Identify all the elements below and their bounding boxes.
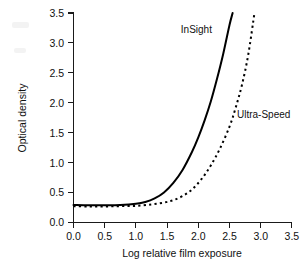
x-tick-marks bbox=[74, 223, 292, 229]
y-axis-title: Optical density bbox=[16, 83, 28, 153]
series-line-ultra-speed bbox=[74, 13, 255, 206]
y-tick-label: 3.5 bbox=[49, 7, 64, 19]
chart-canvas: 3.5 3.0 2.5 2.0 1.5 1.0 0.5 0.0 0.0 0.5 … bbox=[0, 0, 306, 266]
y-tick-label: 0.5 bbox=[49, 186, 64, 198]
x-tick-label: 1.5 bbox=[160, 230, 175, 242]
x-tick-label: 1.0 bbox=[129, 230, 144, 242]
y-tick-label: 2.0 bbox=[49, 97, 64, 109]
x-tick-label: 3.0 bbox=[253, 230, 268, 242]
characteristic-curve-chart: 3.5 3.0 2.5 2.0 1.5 1.0 0.5 0.0 0.0 0.5 … bbox=[0, 0, 306, 266]
x-tick-label: 2.0 bbox=[191, 230, 206, 242]
y-tick-label: 2.5 bbox=[49, 67, 64, 79]
y-tick-marks bbox=[68, 13, 74, 222]
y-tick-label: 3.0 bbox=[49, 37, 64, 49]
x-axis-title: Log relative film exposure bbox=[122, 247, 242, 259]
series-label-ultra-speed: Ultra-Speed bbox=[237, 109, 290, 120]
x-tick-label: 3.5 bbox=[285, 230, 300, 242]
series-line-insight bbox=[74, 13, 233, 205]
y-tick-label: 1.5 bbox=[49, 127, 64, 139]
x-tick-label: 0.5 bbox=[97, 230, 112, 242]
y-tick-labels: 3.5 3.0 2.5 2.0 1.5 1.0 0.5 0.0 bbox=[49, 7, 64, 228]
series-label-insight: InSight bbox=[181, 24, 212, 35]
x-tick-label: 0.0 bbox=[66, 230, 81, 242]
y-tick-label: 0.0 bbox=[49, 216, 64, 228]
y-tick-label: 1.0 bbox=[49, 157, 64, 169]
x-tick-labels: 0.0 0.5 1.0 1.5 2.0 2.5 3.0 3.5 bbox=[66, 230, 299, 242]
x-tick-label: 2.5 bbox=[222, 230, 237, 242]
